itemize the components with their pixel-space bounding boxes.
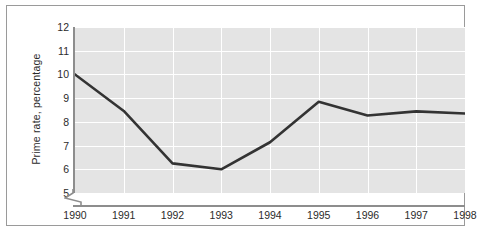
x-axis-line xyxy=(73,205,465,207)
x-axis-tick-label: 1990 xyxy=(63,209,86,221)
x-axis-tick-label: 1991 xyxy=(112,209,135,221)
x-axis-tick-label: 1997 xyxy=(405,209,428,221)
x-axis-tick-label: 1993 xyxy=(210,209,233,221)
y-axis-tick-label: 6 xyxy=(63,163,69,175)
x-axis-tick-label: 1995 xyxy=(307,209,330,221)
y-axis-line xyxy=(73,27,75,193)
x-axis-tick-labels: 199019911992199319941995199619971998 xyxy=(75,209,465,225)
y-axis-tick-label: 12 xyxy=(57,21,69,33)
y-axis-tick-label: 8 xyxy=(63,116,69,128)
figure-frame: Prime rate, percentage 56789101112 19901… xyxy=(6,5,465,226)
y-axis-tick-label: 7 xyxy=(63,140,69,152)
y-axis-tick-label: 10 xyxy=(57,68,69,80)
y-axis-tick-label: 9 xyxy=(63,92,69,104)
y-axis-tick-label: 11 xyxy=(58,45,69,57)
x-axis-tick-label: 1994 xyxy=(258,209,281,221)
y-axis-title: Prime rate, percentage xyxy=(30,34,42,184)
x-axis-tick-label: 1992 xyxy=(161,209,184,221)
x-axis-tick-label: 1998 xyxy=(453,209,476,221)
plot-area xyxy=(75,27,465,193)
x-axis-tick-label: 1996 xyxy=(356,209,379,221)
data-line-prime-rate xyxy=(75,74,465,169)
line-series xyxy=(75,27,465,193)
y-axis-tick-labels: 56789101112 xyxy=(47,27,69,193)
